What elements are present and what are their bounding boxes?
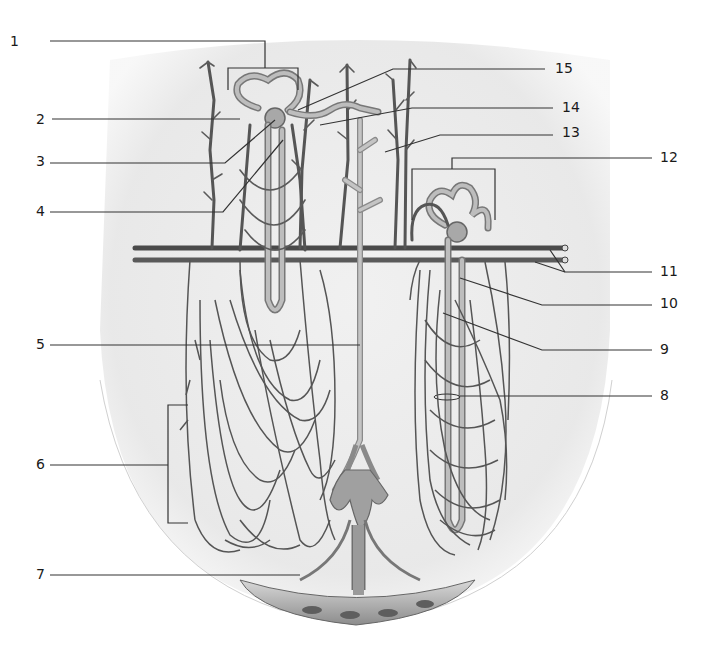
label-2: 2 — [36, 111, 45, 127]
label-6: 6 — [36, 456, 45, 472]
label-3: 3 — [36, 153, 45, 169]
label-10: 10 — [660, 295, 678, 311]
label-15: 15 — [555, 60, 573, 76]
label-7: 7 — [36, 566, 45, 582]
label-5: 5 — [36, 336, 45, 352]
diagram-canvas: 1 2 3 4 5 6 7 15 14 13 12 11 10 9 8 — [0, 0, 713, 652]
label-13: 13 — [562, 124, 580, 140]
label-8: 8 — [660, 387, 669, 403]
label-1: 1 — [10, 33, 19, 49]
label-12: 12 — [660, 149, 678, 165]
label-4: 4 — [36, 203, 45, 219]
nephron-diagram: 1 2 3 4 5 6 7 15 14 13 12 11 10 9 8 — [0, 0, 713, 652]
label-14: 14 — [562, 99, 580, 115]
label-9: 9 — [660, 341, 669, 357]
label-11: 11 — [660, 263, 678, 279]
labels-left: 1 2 3 4 5 6 7 — [10, 33, 45, 582]
